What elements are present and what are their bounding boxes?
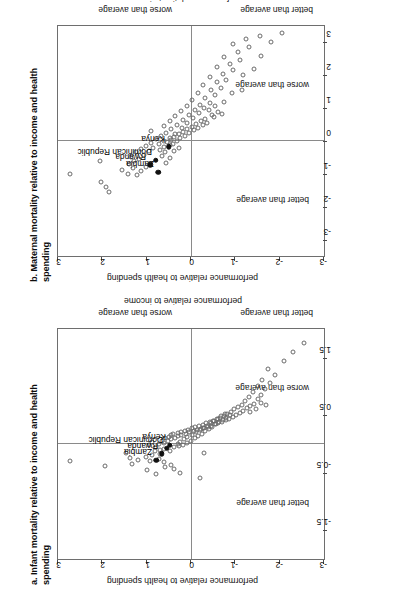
scatter-point [161,460,166,465]
scatter-point [259,53,264,58]
scatter-point [206,107,211,112]
scatter-point [228,61,233,66]
x-axis-tick-label: 1.5 [319,345,331,355]
scatter-point [201,83,206,88]
quadrant-note-x-better: better than average [240,308,313,318]
scatter-point [290,350,295,355]
x-axis-tick-label: -1 [324,161,331,171]
scatter-point [214,79,219,84]
scatter-point [228,413,233,418]
quadrant-note-x-worse: worse than average [98,5,172,15]
scatter-point [191,116,196,121]
y-axis-tick-label: -2 [275,560,282,570]
quadrant-note-x-better: better than average [240,5,313,15]
scatter-point [167,156,172,161]
scatter-point-highlighted [147,162,153,168]
scatter-point [186,112,191,117]
scatter-point [244,37,249,42]
scatter-point [231,42,236,47]
scatter-point [224,78,229,83]
zero-line-horizontal [191,26,192,256]
scatter-point [251,401,256,406]
y-axis-tick-label: -3 [320,257,327,267]
scatter-point [207,101,212,106]
scatter-point [173,114,178,119]
scatter-point [266,367,271,372]
scatter-point [197,102,202,107]
scatter-point [167,119,172,124]
scatter-point [202,450,207,455]
scatter-point [68,171,73,176]
scatter-point [222,55,227,60]
scatter-point [157,147,162,152]
country-label: Dominican Republic [77,147,151,157]
scatter-point [259,400,264,405]
scatter-point [134,173,139,178]
scatter-point [222,412,227,417]
scatter-point [176,146,181,151]
scatter-point [195,91,200,96]
x-axis-tick [323,42,327,43]
y-axis-title: performance relative to health spending [107,273,258,283]
scatter-point [189,97,194,102]
scatter-point [208,88,213,93]
scatter-point [203,96,208,101]
scatter-point [214,65,219,70]
figure-canvas: a. Infant mortality relative to income a… [0,0,399,607]
scatter-point [106,189,111,194]
panel-b-title: b. Maternal mortality relative to income… [28,62,52,282]
scatter-point [174,122,179,127]
scatter-point [246,394,251,399]
scatter-point [268,40,273,45]
scatter-point [103,463,108,468]
scatter-point [273,373,278,378]
scatter-point [139,169,144,174]
quadrant-note-y-worse: worse than average [235,81,309,91]
x-axis-tick [323,415,327,416]
quadrant-note-y-better: better than average [236,499,309,509]
x-axis-tick-label: -1.5 [317,517,331,527]
quadrant-note-y-worse: worse than average [235,384,309,394]
country-label: Kenya [141,134,165,144]
x-axis-tick-label: 0.5 [319,402,331,412]
scatter-point [97,158,102,163]
scatter-point-highlighted [154,457,160,463]
scatter-point [120,167,125,172]
scatter-point [181,117,186,122]
x-axis-tick-label: -2 [324,194,331,204]
scatter-point [130,461,135,466]
x-axis-tick-label: 0 [326,128,331,138]
scatter-point [144,467,149,472]
scatter-point [147,459,152,464]
x-axis-tick-label: 3 [326,29,331,39]
panel-maternal-mortality: b. Maternal mortality relative to income… [0,1,399,304]
y-axis-tick-label: -3 [320,560,327,570]
scatter-point [135,458,140,463]
scatter-point [237,58,242,63]
scatter-point [149,129,154,134]
scatter-point [235,50,240,55]
scatter-point [246,45,251,50]
x-axis-tick [323,174,327,175]
scatter-point [164,160,169,165]
scatter-point [163,465,168,470]
scatter-point [251,66,256,71]
scatter-point [229,91,234,96]
scatter-point [196,111,201,116]
scatter-point [68,459,73,464]
scatter-point [172,467,177,472]
x-axis-tick-label: -3 [324,227,331,237]
y-axis-tick-label: 0 [189,257,194,267]
panel-infant-mortality: a. Infant mortality relative to income a… [0,304,399,607]
y-axis-tick-label: 3 [56,560,61,570]
scatter-point [184,104,189,109]
scatter-point [248,410,253,415]
scatter-point [159,153,164,158]
quadrant-note-x-worse: worse than average [98,308,172,318]
y-axis-tick-label: 2 [101,560,106,570]
scatter-point [177,470,182,475]
y-axis-tick-label: -1 [231,257,238,267]
scatter-point [253,407,258,412]
country-label: Kenya [142,432,166,442]
scatter-point [243,399,248,404]
